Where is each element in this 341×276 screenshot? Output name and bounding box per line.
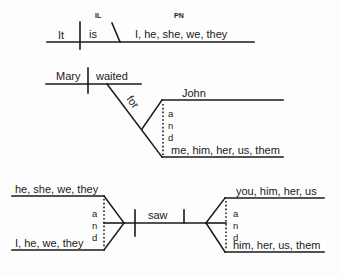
subject-top-3: he, she, we, they xyxy=(15,183,99,195)
subject-fork-upper xyxy=(104,196,124,223)
object-fork-lower xyxy=(206,223,225,252)
preposition-for: for xyxy=(124,93,142,111)
diagram-2: Mary waited for John a n d me, him, her,… xyxy=(46,68,283,157)
object-top-3: you, him, her, us xyxy=(236,185,317,197)
subject-mary: Mary xyxy=(56,70,81,82)
predicate-slash xyxy=(112,23,120,42)
object-john: John xyxy=(182,87,206,99)
conj-a-3-left: a xyxy=(92,208,98,219)
object-bottom-3: him, her, us, them xyxy=(233,239,320,251)
conj-n-2: n xyxy=(168,120,173,131)
subject-bottom-3: I, he, we, they xyxy=(15,237,84,249)
verb-is: is xyxy=(89,28,97,40)
predicate-nominative: I, he, she, we, they xyxy=(135,28,228,40)
verb-saw: saw xyxy=(148,209,168,221)
object-fork-upper xyxy=(206,198,225,223)
fork-upper-2 xyxy=(142,100,162,129)
subject-it: It xyxy=(58,29,64,41)
conj-a-2: a xyxy=(168,108,174,119)
verb-waited: waited xyxy=(95,70,128,82)
conj-n-3-left: n xyxy=(92,220,97,231)
diagram-svg: It is IL PN I, he, she, we, they Mary wa… xyxy=(0,0,341,276)
sentence-diagram-figure: It is IL PN I, he, she, we, they Mary wa… xyxy=(0,0,341,276)
conj-d-3-left: d xyxy=(92,232,97,243)
label-pn: PN xyxy=(174,12,184,19)
conj-d-2: d xyxy=(168,132,173,143)
diagram-1: It is IL PN I, he, she, we, they xyxy=(47,12,254,49)
object-pronouns-2: me, him, her, us, them xyxy=(171,144,280,156)
conj-a-3-right: a xyxy=(233,208,239,219)
label-il: IL xyxy=(95,12,102,19)
diagram-3: he, she, we, they I, he, we, they a n d … xyxy=(12,183,324,252)
conj-n-3-right: n xyxy=(233,220,238,231)
subject-fork-lower xyxy=(104,223,124,250)
conj-d-3-right: d xyxy=(233,232,238,243)
